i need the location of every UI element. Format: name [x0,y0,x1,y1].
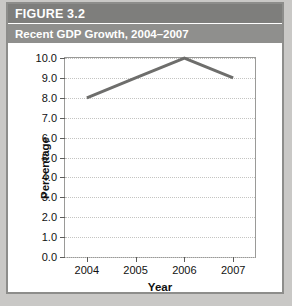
figure-number-band: FIGURE 3.2 [8,4,282,23]
figure-caption-label: Recent GDP Growth, 2004–2007 [15,28,189,40]
x-axis-tick-label: 2005 [123,264,147,276]
gridline [65,257,255,258]
y-axis-tick-label: 10.0 [36,52,57,64]
y-axis-title: Percentage [39,136,51,198]
y-axis-tick-label: 0.0 [42,251,57,263]
gdp-growth-line [87,58,233,98]
plot-frame: 0.01.02.03.04.05.06.07.08.09.010.0 20042… [64,57,256,258]
y-axis-tick-label: 5.0 [42,152,57,164]
y-axis-tick-label: 7.0 [42,112,57,124]
data-series-group [65,58,255,257]
y-axis-tick-label: 3.0 [42,191,57,203]
y-axis-tick-label: 2.0 [42,211,57,223]
y-axis-tick-label: 1.0 [42,231,57,243]
x-axis-tick-label: 2007 [221,264,245,276]
y-axis-tick-label: 8.0 [42,92,57,104]
y-axis-tick-label: 4.0 [42,171,57,183]
chart-area: Percentage 0.01.02.03.04.05.06.07.08.09.… [8,43,282,292]
y-axis-tick [60,257,65,258]
figure-caption-band: Recent GDP Growth, 2004–2007 [8,23,282,43]
y-axis-tick-label: 6.0 [42,132,57,144]
x-axis-title: Year [64,281,256,293]
y-axis-tick-label: 9.0 [42,72,57,84]
x-axis-tick [184,257,185,262]
x-axis-tick-label: 2006 [172,264,196,276]
figure-number-label: FIGURE 3.2 [15,7,85,21]
x-axis-tick [87,257,88,262]
figure-panel: FIGURE 3.2 Recent GDP Growth, 2004–2007 … [6,2,284,294]
x-axis-tick-label: 2004 [75,264,99,276]
x-axis-tick [136,257,137,262]
x-axis-tick [233,257,234,262]
